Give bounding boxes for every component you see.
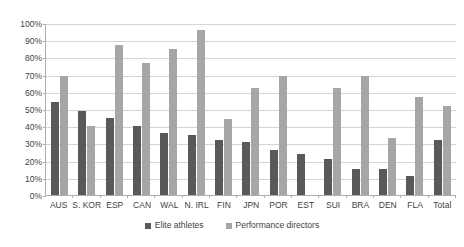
bar-performance-directors	[60, 76, 68, 195]
y-axis-tick-label: 70%	[8, 72, 42, 81]
bars-layer	[46, 24, 456, 195]
chart-legend: Elite athletesPerformance directors	[0, 221, 464, 230]
x-axis-tick-label: FIN	[210, 199, 237, 213]
x-axis-tick-label: POR	[265, 199, 292, 213]
y-axis-tick-label: 40%	[8, 123, 42, 132]
y-axis-tick-label: 10%	[8, 175, 42, 184]
y-axis-tick-label: 90%	[8, 37, 42, 46]
bar-group	[210, 24, 237, 195]
x-axis-tick-label: N. IRL	[183, 199, 210, 213]
bar-performance-directors	[361, 76, 369, 195]
bar-elite-athletes	[406, 176, 414, 195]
bar-performance-directors	[415, 97, 423, 195]
bar-chart: 100%90%80%70%60%50%40%30%20%10%0% AUSS. …	[0, 0, 464, 247]
bar-elite-athletes	[51, 102, 59, 195]
y-axis-tick-label: 30%	[8, 140, 42, 149]
bar-elite-athletes	[215, 140, 223, 195]
bar-group	[183, 24, 210, 195]
bar-elite-athletes	[324, 159, 332, 195]
bar-performance-directors	[333, 88, 341, 195]
bar-group	[347, 24, 374, 195]
bar-group	[292, 24, 319, 195]
bar-elite-athletes	[78, 111, 86, 195]
x-axis-tick-label: JPN	[238, 199, 265, 213]
bar-elite-athletes	[270, 150, 278, 195]
x-axis-tick-label: CAN	[128, 199, 155, 213]
bar-elite-athletes	[434, 140, 442, 195]
legend-swatch-icon	[145, 223, 151, 229]
bar-group	[374, 24, 401, 195]
x-axis: AUSS. KORESPCANWALN. IRLFINJPNPORESTSUIB…	[45, 199, 456, 213]
y-axis-tick-label: 20%	[8, 158, 42, 167]
x-axis-tick-label: DEN	[374, 199, 401, 213]
y-axis-tick-label: 80%	[8, 54, 42, 63]
x-axis-tick-label: WAL	[156, 199, 183, 213]
y-axis-tick-label: 100%	[8, 20, 42, 29]
bar-elite-athletes	[242, 142, 250, 195]
x-axis-tick-label: SUI	[319, 199, 346, 213]
legend-label: Elite athletes	[155, 221, 204, 230]
plot-area	[45, 24, 456, 196]
bar-group	[73, 24, 100, 195]
bar-group	[237, 24, 264, 195]
legend-item[interactable]: Performance directors	[226, 221, 320, 230]
bar-group	[101, 24, 128, 195]
legend-label: Performance directors	[236, 221, 320, 230]
bar-elite-athletes	[106, 118, 114, 195]
x-axis-tick-label: AUS	[45, 199, 72, 213]
bar-performance-directors	[279, 76, 287, 195]
bar-elite-athletes	[160, 133, 168, 195]
gridline	[46, 195, 456, 196]
bar-group	[128, 24, 155, 195]
bar-elite-athletes	[133, 126, 141, 195]
x-axis-tick-label: FLA	[401, 199, 428, 213]
bar-elite-athletes	[352, 169, 360, 195]
bar-group	[401, 24, 428, 195]
bar-group	[429, 24, 456, 195]
x-axis-tick-label: S. KOR	[72, 199, 101, 213]
x-axis-tick-label: BRA	[347, 199, 374, 213]
y-axis-tick-label: 60%	[8, 89, 42, 98]
bar-group	[46, 24, 73, 195]
bar-performance-directors	[115, 45, 123, 195]
bar-elite-athletes	[379, 169, 387, 195]
bar-performance-directors	[169, 49, 177, 195]
y-axis-tick-label: 0%	[8, 192, 42, 201]
bar-performance-directors	[224, 119, 232, 195]
bar-group	[155, 24, 182, 195]
bar-performance-directors	[443, 106, 451, 195]
x-axis-tick-label: ESP	[101, 199, 128, 213]
bar-performance-directors	[197, 30, 205, 195]
y-axis: 100%90%80%70%60%50%40%30%20%10%0%	[8, 24, 42, 196]
bar-performance-directors	[142, 63, 150, 195]
bar-group	[319, 24, 346, 195]
y-axis-tick-mark	[43, 196, 46, 197]
legend-swatch-icon	[226, 223, 232, 229]
x-axis-tick-label: EST	[292, 199, 319, 213]
bar-elite-athletes	[188, 135, 196, 195]
bar-group	[265, 24, 292, 195]
legend-item[interactable]: Elite athletes	[145, 221, 204, 230]
bar-performance-directors	[87, 126, 95, 195]
bar-performance-directors	[388, 138, 396, 195]
bar-performance-directors	[251, 88, 259, 195]
y-axis-tick-label: 50%	[8, 106, 42, 115]
x-axis-tick-label: Total	[429, 199, 456, 213]
bar-elite-athletes	[297, 154, 305, 195]
